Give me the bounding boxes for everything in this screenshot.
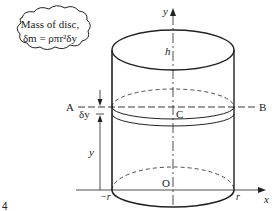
origin-label: O [162,177,170,189]
dy-label: δy [79,108,90,120]
y-dim-up-arrow-icon [98,115,103,122]
figure-number: 4 [2,201,8,211]
point-C-label: C [176,108,183,120]
callout-line1: Mass of disc, [21,18,80,30]
y-dimension-label: y [88,146,94,158]
point-B-label: B [259,101,266,113]
y-axis-label: y [162,5,168,17]
height-label: h [165,45,171,57]
dy-down-arrow-icon [98,99,103,106]
neg-radius-label: −r [100,191,111,202]
x-axis-label: x [263,193,269,205]
point-A-label: A [66,101,74,113]
y-axis-arrow-icon [170,8,176,16]
callout-line2: δm = ρπr²δy [23,32,78,44]
cylinder-diagram: Mass of disc, δm = ρπr²δy y x A B C h δy… [0,0,272,211]
pos-radius-label: r [236,191,240,202]
